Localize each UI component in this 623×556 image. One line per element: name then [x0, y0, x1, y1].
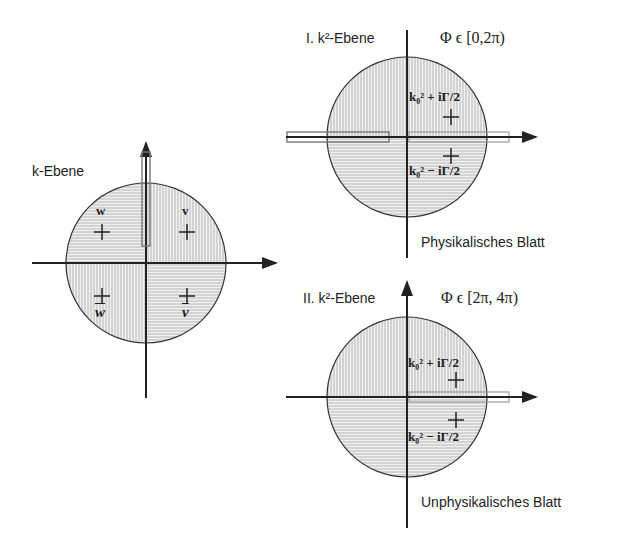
sheet2-title: II. k²-Ebene: [303, 290, 375, 306]
sheet1-pole-lower: k₀² − iΓ/2: [409, 163, 460, 179]
sheet2-phi-range: Φ ϵ [2π, 4π): [441, 289, 518, 307]
quadrant-label-v-bar: v: [182, 304, 189, 321]
sheet2-caption: Unphysikalisches Blatt: [421, 494, 561, 510]
sheet1-caption: Physikalisches Blatt: [421, 234, 545, 250]
sheet2-plane: [286, 282, 536, 528]
k-plane-title: k-Ebene: [32, 163, 84, 179]
sheet2-pole-upper: k₀² + iΓ/2: [408, 355, 459, 371]
sheet1-plane: [286, 30, 536, 258]
sheet2-pole-lower: k₀² − iΓ/2: [408, 429, 459, 445]
sheet1-title: I. k²-Ebene: [306, 30, 374, 46]
quadrant-label-w: w: [96, 203, 105, 219]
quadrant-label-v: v: [182, 203, 189, 219]
quadrant-label-w-bar: w: [95, 304, 105, 321]
diagram-canvas: [0, 0, 623, 556]
sheet1-phi-range: Φ ϵ [0,2π): [440, 29, 505, 47]
sheet1-pole-upper: k₀² + iΓ/2: [409, 89, 460, 105]
k-plane: [32, 143, 276, 398]
